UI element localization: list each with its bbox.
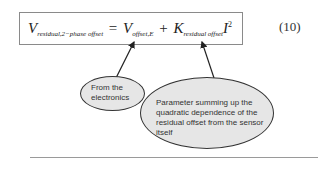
arrow-sensor [202, 42, 214, 78]
callout-sensor: Parameter summing up the quadratic depen… [140, 77, 274, 149]
arrow-electronics [116, 42, 134, 78]
callout-electronics: From the electronics [80, 76, 145, 111]
horizontal-rule [30, 157, 318, 158]
